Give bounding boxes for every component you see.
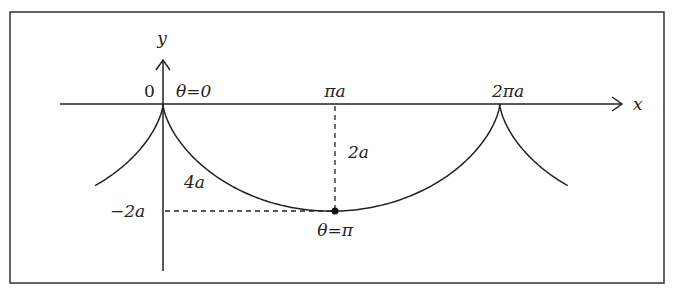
arc-length-label: 4a: [183, 172, 205, 192]
minus-two-a-label: −2a: [110, 201, 145, 221]
two-pi-a-label: 2πa: [491, 81, 524, 101]
origin-label: 0: [144, 81, 155, 101]
height-label: 2a: [347, 142, 369, 162]
theta-zero-label: θ=0: [176, 81, 211, 101]
minimum-point: [332, 208, 339, 215]
theta-pi-label: θ=π: [317, 220, 353, 240]
y-axis-label: y: [156, 28, 167, 48]
cycloid-diagram: y x 0 θ=0 πa 2πa 2a 4a −2a θ=π: [0, 0, 674, 292]
cycloid-left-arc: [95, 104, 163, 186]
pi-a-label: πa: [323, 81, 345, 101]
frame: [10, 12, 664, 283]
x-axis-label: x: [633, 94, 643, 114]
cycloid-right-arc: [500, 104, 568, 186]
cycloid-arch: [163, 104, 500, 211]
